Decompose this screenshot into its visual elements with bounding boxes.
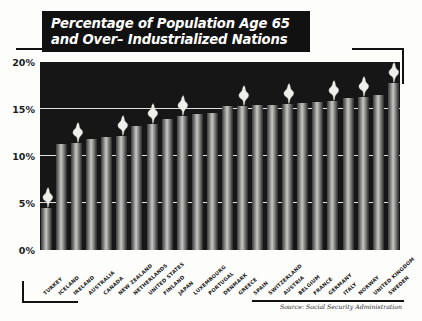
chart-title-line-2: and Over– Industrialized Nations bbox=[51, 32, 301, 48]
bar-portugal bbox=[207, 113, 218, 250]
bar-spain bbox=[252, 105, 263, 250]
bar-austria bbox=[282, 104, 293, 250]
bar-belgium bbox=[297, 103, 308, 250]
frame-bracket-right bbox=[402, 48, 404, 84]
plot-background bbox=[40, 62, 400, 250]
flame-icon bbox=[116, 115, 129, 136]
bar-united-kingdom bbox=[373, 95, 384, 250]
frame-bracket-bottom-left-vertical bbox=[22, 281, 24, 303]
y-axis: 0%5%10%15%20% bbox=[0, 62, 38, 250]
bar-denmark bbox=[222, 106, 233, 250]
flame-icon bbox=[358, 76, 371, 97]
bar-germany bbox=[327, 101, 338, 250]
bar-norway bbox=[358, 97, 369, 250]
flame-icon bbox=[41, 187, 54, 208]
chart-title-line-1: Percentage of Population Age 65 bbox=[51, 16, 301, 32]
flame-icon bbox=[237, 85, 250, 106]
y-axis-tick-label: 0% bbox=[19, 245, 35, 256]
flame-icon bbox=[328, 80, 341, 101]
bar-japan bbox=[177, 116, 188, 250]
bar-united-states bbox=[147, 124, 158, 250]
chart-figure: Percentage of Population Age 65 and Over… bbox=[0, 0, 422, 321]
bar-france bbox=[312, 102, 323, 250]
y-axis-tick-label: 15% bbox=[12, 104, 35, 115]
source-note: Source: Social Security Administration bbox=[280, 303, 402, 310]
y-axis-tick-label: 10% bbox=[12, 151, 35, 162]
bar-ireland bbox=[71, 143, 82, 250]
flame-icon bbox=[147, 103, 160, 124]
bar-australia bbox=[86, 139, 97, 250]
bar-sweden bbox=[388, 83, 399, 250]
bar-iceland bbox=[56, 144, 67, 250]
bar-series bbox=[40, 62, 400, 250]
flame-icon bbox=[71, 122, 84, 143]
bar-turkey bbox=[41, 208, 52, 250]
bar-finland bbox=[162, 119, 173, 250]
bar-netherlands bbox=[131, 126, 142, 250]
chart-title-banner: Percentage of Population Age 65 and Over… bbox=[42, 11, 310, 52]
plot-area bbox=[40, 62, 400, 250]
flame-icon bbox=[282, 83, 295, 104]
bar-luxembourg bbox=[192, 114, 203, 250]
x-axis-category-labels: TURKEYICELANDIRELANDAUSTRALIACANADANEW Z… bbox=[40, 250, 400, 302]
bar-new-zealand bbox=[116, 136, 127, 250]
y-axis-tick-label: 20% bbox=[12, 57, 35, 68]
flame-icon bbox=[388, 62, 400, 83]
frame-bracket-top-right bbox=[352, 48, 404, 50]
y-axis-tick-label: 5% bbox=[19, 198, 35, 209]
bar-greece bbox=[237, 106, 248, 250]
bar-italy bbox=[343, 98, 354, 250]
bar-canada bbox=[101, 137, 112, 250]
bar-switzerland bbox=[267, 105, 278, 250]
flame-icon bbox=[177, 95, 190, 116]
